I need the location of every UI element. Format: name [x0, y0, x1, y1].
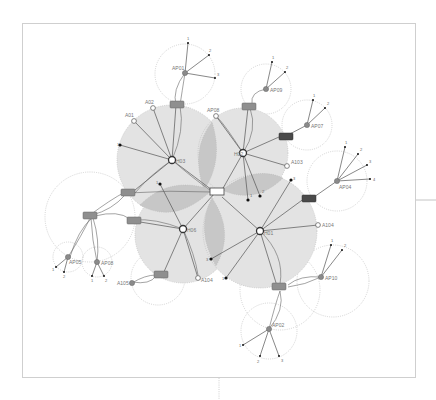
label-a104-bottom: A104: [201, 277, 213, 283]
label-ap05: AP05: [69, 259, 81, 265]
label-ap02: AP02: [272, 322, 284, 328]
label-ap08: AP08: [101, 260, 113, 266]
hub-h03: [169, 157, 176, 164]
label-ap09: AP09: [270, 87, 282, 93]
switch-h03-top: [170, 101, 184, 108]
label-ap08-endpoint: AP08: [207, 107, 219, 113]
switch-h02-right: [279, 133, 293, 140]
switch-h01-right: [302, 195, 316, 202]
label-a01: A01: [125, 112, 134, 118]
label-ap10: AP10: [325, 275, 337, 281]
switch-west: [83, 212, 97, 219]
label-ap07: AP07: [311, 123, 323, 129]
label-a02: A02: [145, 99, 154, 105]
label-a105: A105: [117, 280, 129, 286]
label-h06: H06: [187, 227, 196, 233]
label-h03: H03: [176, 158, 185, 164]
hub-h01: [257, 228, 264, 235]
label-h01: H01: [264, 230, 273, 236]
core-router: [210, 188, 224, 195]
network-topology-diagram: H03 H02 H06 H01 AP01 AP09 AP07 AP04 AP10…: [0, 0, 436, 400]
switch-h01-bottom: [272, 283, 286, 290]
label-ap01: AP01: [172, 65, 184, 71]
label-a104-right: A104: [322, 222, 334, 228]
label-ap04: AP04: [339, 184, 351, 190]
switch-h03-left: [121, 189, 135, 196]
hub-h06: [180, 226, 187, 233]
label-h02: H02: [234, 151, 243, 157]
label-a103: A103: [291, 159, 303, 165]
switch-h02-top: [242, 103, 256, 110]
switch-h06-bottom: [154, 271, 168, 278]
switch-h06-left: [127, 217, 141, 224]
